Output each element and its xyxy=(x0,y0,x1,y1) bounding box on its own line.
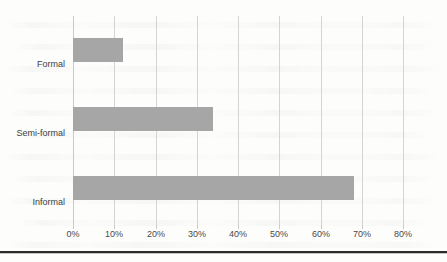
category-label-formal: Formal xyxy=(37,60,65,69)
category-label-informal: Informal xyxy=(32,198,65,207)
bar-chart: Formal Semi-formal Informal 0% 10% 20% 3… xyxy=(0,0,447,262)
gridline-70 xyxy=(362,16,363,225)
bar-semi-formal xyxy=(73,107,213,131)
bar-informal xyxy=(73,176,354,200)
gridline-80 xyxy=(403,16,404,225)
xtick-label-30: 30% xyxy=(188,230,206,239)
xtick-label-50: 50% xyxy=(270,230,288,239)
xtick-label-10: 10% xyxy=(105,230,123,239)
xtick-label-60: 60% xyxy=(312,230,330,239)
xtick-label-0: 0% xyxy=(66,230,79,239)
value-axis-labels: 0% 10% 20% 30% 40% 50% 60% 70% 80% xyxy=(0,230,447,244)
category-label-semi-formal: Semi-formal xyxy=(16,129,65,138)
xtick-label-70: 70% xyxy=(353,230,371,239)
xtick-label-20: 20% xyxy=(147,230,165,239)
xtick-label-40: 40% xyxy=(229,230,247,239)
category-axis-labels: Formal Semi-formal Informal xyxy=(0,16,69,225)
bar-formal xyxy=(73,38,123,62)
xtick-label-80: 80% xyxy=(394,230,412,239)
plot-area xyxy=(73,16,403,225)
page-bottom-rule-shadow xyxy=(0,253,447,254)
